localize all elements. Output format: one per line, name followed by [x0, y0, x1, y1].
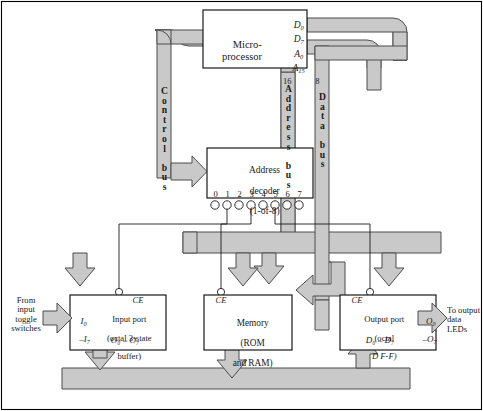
memory-box — [204, 295, 292, 350]
address-bus-label: A d d r e s s b u s — [282, 84, 295, 190]
decoder-out-3: 3 — [247, 190, 256, 199]
input-port-box — [70, 295, 166, 350]
decoder-out-5: 5 — [271, 190, 280, 199]
diagram-graphics: .bus{fill:#c9c9c9;stroke:#4d4d4d;stroke-… — [0, 0, 483, 411]
decoder-out-2: 2 — [235, 190, 244, 199]
decoder-out-1: 1 — [223, 190, 232, 199]
decoder-out-4: 4 — [259, 190, 268, 199]
decoder-output-pads — [211, 201, 303, 209]
control-bus-label: C o n t r o l b u s — [158, 86, 171, 192]
data-bus-label: D a t a b u s — [316, 92, 329, 169]
microprocessor-box — [203, 10, 307, 68]
decoder-out-6: 6 — [283, 190, 292, 199]
input-switches-arrow-2 — [43, 303, 72, 333]
diagram-canvas: .bus{fill:#c9c9c9;stroke:#4d4d4d;stroke-… — [0, 0, 483, 411]
decoder-out-7: 7 — [295, 190, 304, 199]
decoder-out-0: 0 — [211, 190, 220, 199]
decoder-output-numbers: 0 1 2 3 4 5 6 7 — [207, 190, 313, 201]
